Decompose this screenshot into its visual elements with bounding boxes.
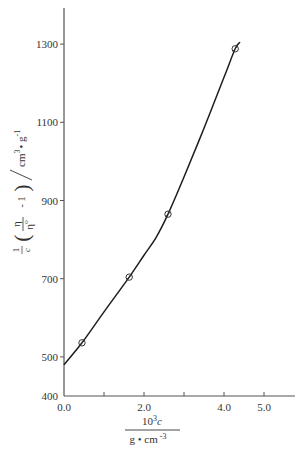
x-tick-label: 4.0 xyxy=(217,401,231,413)
y-label-units-rest: • g xyxy=(15,136,27,149)
y-tick-label: 900 xyxy=(42,195,59,207)
y-tick-label: 700 xyxy=(42,273,59,285)
y-tick-label: 1100 xyxy=(36,116,58,128)
y-tick-label: 1300 xyxy=(36,38,59,50)
x-label-denominator-exponent: -3 xyxy=(160,432,167,441)
y-label-prefix-numerator: 1 xyxy=(11,248,21,253)
x-tick-label: 0.0 xyxy=(57,401,71,413)
y-label-units-exponent: 3 xyxy=(13,150,22,154)
y-label-units: cm xyxy=(15,153,27,167)
svg-text:ηo: ηo xyxy=(22,220,35,230)
y-label-units-rest-exponent: -1 xyxy=(13,130,22,137)
x-tick-label: 5.0 xyxy=(257,401,271,413)
x-tick-label: 2.0 xyxy=(137,401,151,413)
svg-text:103c: 103c xyxy=(142,414,162,427)
x-label-denominator: g • cm xyxy=(130,433,159,445)
y-label-eta0-sub: o xyxy=(22,220,30,224)
y-tick-label: 500 xyxy=(42,351,59,363)
chart-canvas: 40050070090011001300 0.02.04.05.0 103c g… xyxy=(0,0,306,453)
y-ticks: 40050070090011001300 xyxy=(36,38,64,402)
y-label-eta: η xyxy=(10,221,22,227)
y-label-open-paren: ( xyxy=(9,234,34,241)
data-point-slash xyxy=(80,340,85,345)
data-point-slash xyxy=(127,275,132,280)
fitted-curve xyxy=(64,42,240,365)
data-markers xyxy=(79,46,239,346)
y-label-slash xyxy=(10,170,32,180)
x-label-numerator: 10 xyxy=(142,415,154,427)
y-label-prefix-denominator: c xyxy=(22,248,32,252)
y-axis-label: 1 c ( η ηo - 1 ) cm3• g-1 xyxy=(9,130,35,254)
svg-text:cm3• g-1: cm3• g-1 xyxy=(13,130,27,167)
x-label-variable: c xyxy=(157,415,162,427)
y-tick-label: 400 xyxy=(42,390,59,402)
y-label-minus-one: - 1 xyxy=(16,197,27,208)
x-ticks: 0.02.04.05.0 xyxy=(57,392,271,413)
svg-text:g • cm-3: g • cm-3 xyxy=(130,432,167,445)
x-axis-label: 103c g • cm-3 xyxy=(125,414,180,445)
y-label-close-paren: ) xyxy=(9,184,34,191)
